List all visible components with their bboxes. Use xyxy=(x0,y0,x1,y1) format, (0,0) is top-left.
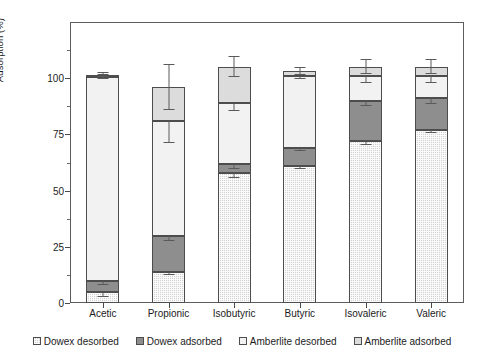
error-bar-cap xyxy=(360,144,371,145)
bar-segment-dowex-desorbed[interactable] xyxy=(218,173,251,303)
error-bar-cap xyxy=(294,150,305,151)
error-bar xyxy=(234,57,235,77)
legend-swatch-icon xyxy=(33,337,41,345)
legend-label: Amberlite desorbed xyxy=(250,336,337,347)
error-bar-cap xyxy=(294,74,305,75)
x-tick-label-butyric: Butyric xyxy=(285,308,316,319)
error-bar-cap xyxy=(360,105,371,106)
error-bar-cap xyxy=(229,110,240,111)
legend-swatch-icon xyxy=(136,337,144,345)
bar-segment-dowex-adsorbed[interactable] xyxy=(349,101,382,141)
error-bar-cap xyxy=(426,59,437,60)
y-tick-label: 100 xyxy=(30,73,64,84)
bar-segment-dowex-desorbed[interactable] xyxy=(415,130,448,303)
chart-figure: Adsorption (%) 0255075100 AceticPropioni… xyxy=(0,0,484,359)
error-bar-cap xyxy=(163,274,174,275)
bar-group-butyric[interactable] xyxy=(283,22,316,303)
error-bar-cap xyxy=(426,82,437,83)
y-tick-label: 25 xyxy=(30,241,64,252)
y-tick-major xyxy=(65,303,70,304)
error-bar-cap xyxy=(294,78,305,79)
error-bar-cap xyxy=(294,67,305,68)
error-bar-cap xyxy=(229,177,240,178)
x-tick-label-propionic: Propionic xyxy=(148,308,190,319)
error-bar-cap xyxy=(97,78,108,79)
y-axis-tick-labels: 0255075100 xyxy=(28,0,64,359)
y-tick-label: 75 xyxy=(30,129,64,140)
bar-segment-amberlite-desorbed[interactable] xyxy=(218,103,251,164)
legend-item-dowex-adsorbed[interactable]: Dowex adsorbed xyxy=(136,336,222,347)
y-tick-label: 50 xyxy=(30,185,64,196)
x-tick-label-valeric: Valeric xyxy=(416,308,446,319)
legend-item-amberlite-adsorbed[interactable]: Amberlite adsorbed xyxy=(354,336,452,347)
error-bar-cap xyxy=(229,168,240,169)
bar-segment-dowex-desorbed[interactable] xyxy=(283,166,316,303)
error-bar-cap xyxy=(426,73,437,74)
bar-group-isovaleric[interactable] xyxy=(349,22,382,303)
legend-item-amberlite-desorbed[interactable]: Amberlite desorbed xyxy=(239,336,337,347)
legend-swatch-icon xyxy=(239,337,247,345)
bar-series-layer xyxy=(70,22,464,303)
bar-segment-amberlite-desorbed[interactable] xyxy=(86,77,119,280)
error-bar-cap xyxy=(294,168,305,169)
error-bar-cap xyxy=(360,73,371,74)
chart-legend: Dowex desorbedDowex adsorbedAmberlite de… xyxy=(0,331,484,351)
error-bar-cap xyxy=(426,132,437,133)
error-bar-cap xyxy=(97,296,108,297)
error-bar-cap xyxy=(97,284,108,285)
error-bar-cap xyxy=(229,76,240,77)
error-bar-cap xyxy=(163,64,174,65)
x-tick-label-acetic: Acetic xyxy=(89,308,116,319)
bar-group-propionic[interactable] xyxy=(152,22,185,303)
legend-label: Amberlite adsorbed xyxy=(365,336,452,347)
legend-item-dowex-desorbed[interactable]: Dowex desorbed xyxy=(33,336,119,347)
error-bar-cap xyxy=(163,240,174,241)
error-bar xyxy=(365,60,366,73)
bar-segment-dowex-desorbed[interactable] xyxy=(152,272,185,303)
legend-swatch-icon xyxy=(354,337,362,345)
error-bar-cap xyxy=(360,82,371,83)
error-bar-cap xyxy=(229,56,240,57)
x-tick-label-isovaleric: Isovaleric xyxy=(344,308,386,319)
bar-group-isobutyric[interactable] xyxy=(218,22,251,303)
y-tick-label: 0 xyxy=(30,298,64,309)
legend-label: Dowex adsorbed xyxy=(147,336,222,347)
error-bar-cap xyxy=(426,103,437,104)
bar-segment-dowex-desorbed[interactable] xyxy=(349,141,382,303)
error-bar xyxy=(168,65,169,110)
bar-segment-amberlite-desorbed[interactable] xyxy=(283,76,316,148)
error-bar xyxy=(431,60,432,73)
x-tick-label-isobutyric: Isobutyric xyxy=(213,308,256,319)
error-bar-cap xyxy=(163,142,174,143)
error-bar-cap xyxy=(97,76,108,77)
error-bar-cap xyxy=(163,109,174,110)
y-axis-title: Adsorption (%) xyxy=(0,0,5,120)
error-bar-cap xyxy=(360,59,371,60)
legend-label: Dowex desorbed xyxy=(44,336,119,347)
bar-group-valeric[interactable] xyxy=(415,22,448,303)
bar-group-acetic[interactable] xyxy=(86,22,119,303)
error-bar-cap xyxy=(97,72,108,73)
